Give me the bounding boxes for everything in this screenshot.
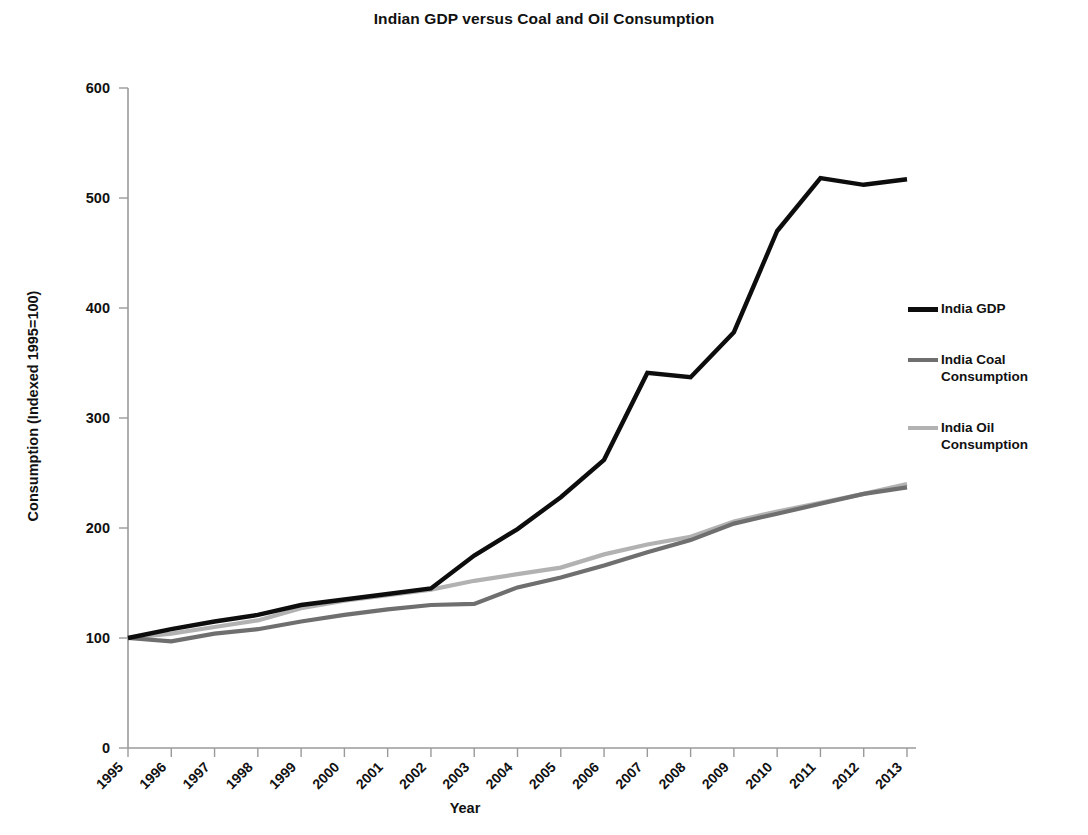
x-tick-label: 2001	[352, 759, 385, 792]
x-tick-label: 2010	[742, 759, 775, 792]
x-tick-label: 2006	[569, 759, 602, 792]
x-tick-label: 2007	[612, 759, 645, 792]
x-tick-label: 1995	[93, 759, 126, 792]
legend-item[interactable]: India Coal Consumption	[908, 351, 1084, 385]
chart-legend: India GDPIndia Coal ConsumptionIndia Oil…	[908, 300, 1084, 487]
y-tick-label: 200	[86, 520, 110, 536]
legend-item-label: India GDP	[941, 300, 1006, 317]
legend-swatch-icon	[908, 307, 938, 312]
series-line-india-gdp	[128, 178, 907, 638]
x-tick-label: 2011	[786, 759, 819, 792]
x-tick-label: 1996	[136, 759, 169, 792]
y-axis-ticks: 0100200300400500600	[86, 80, 128, 756]
legend-swatch-icon	[908, 358, 938, 362]
y-tick-label: 500	[86, 190, 110, 206]
legend-item-label: India Oil Consumption	[941, 419, 1028, 453]
y-tick-label: 0	[102, 740, 110, 756]
x-tick-label: 1999	[266, 759, 299, 792]
x-tick-label: 1997	[179, 759, 212, 792]
y-axis-title: Consumption (Indexed 1995=100)	[25, 186, 41, 626]
x-tick-label: 2002	[396, 759, 429, 792]
x-tick-label: 2005	[526, 759, 559, 792]
series-lines	[128, 178, 907, 641]
x-tick-label: 1998	[223, 759, 256, 792]
x-axis-title: Year	[0, 800, 930, 816]
x-tick-label: 2004	[482, 759, 515, 792]
legend-item[interactable]: India GDP	[908, 300, 1084, 317]
y-tick-label: 400	[86, 300, 110, 316]
y-tick-label: 100	[86, 630, 110, 646]
legend-swatch-icon	[908, 426, 938, 430]
x-tick-label: 2003	[439, 759, 472, 792]
x-tick-label: 2000	[309, 759, 342, 792]
x-axis-ticks	[128, 748, 907, 757]
y-tick-label: 600	[86, 80, 110, 96]
x-axis-labels: 1995199619971998199920002001200220032004…	[93, 759, 905, 792]
chart-container: Indian GDP versus Coal and Oil Consumpti…	[0, 0, 1088, 835]
x-tick-label: 2008	[655, 759, 688, 792]
x-tick-label: 2009	[699, 759, 732, 792]
legend-item-label: India Coal Consumption	[941, 351, 1028, 385]
x-tick-label: 2013	[872, 759, 905, 792]
legend-item[interactable]: India Oil Consumption	[908, 419, 1084, 453]
y-tick-label: 300	[86, 410, 110, 426]
x-tick-label: 2012	[828, 759, 861, 792]
